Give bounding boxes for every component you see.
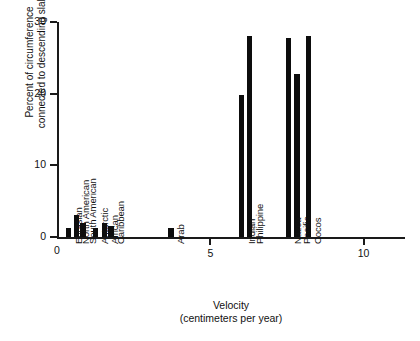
bar [286,38,291,237]
x-axis-tick-label: 10 [349,247,379,259]
y-axis-tick-label: 30 [24,16,46,27]
y-axis-tick-label: 20 [24,88,46,99]
category-label: Pacific [301,217,312,244]
bar [168,228,173,237]
y-axis-tick [50,93,57,95]
x-axis-title: Velocity (centimeters per year) [57,299,405,325]
x-axis-tick-label: 5 [195,247,225,259]
category-label: Caribbean [115,201,126,244]
x-axis-tick-label: 0 [42,244,72,256]
category-label: Cocos [312,218,323,244]
x-axis-title-line-1: Velocity [57,299,405,312]
y-axis-tick-label: 10 [24,159,46,170]
bar-chart-figure: Percent of circumference connected to de… [0,0,420,341]
bar [239,95,244,237]
x-axis-title-line-2: (centimeters per year) [57,312,405,325]
y-axis-tick [50,164,57,166]
category-label: Philippine [254,204,265,244]
category-label: Arab [175,224,186,244]
bar [247,36,252,237]
y-axis-tick-label: 0 [24,231,46,242]
bar [294,74,299,237]
category-label: South American [87,178,98,244]
y-axis-line [57,22,59,238]
bar [306,36,311,237]
bar [66,228,71,237]
y-axis-tick [50,236,57,238]
y-axis-tick [50,21,57,23]
x-axis-tick [363,239,365,245]
x-axis-tick [209,239,211,245]
